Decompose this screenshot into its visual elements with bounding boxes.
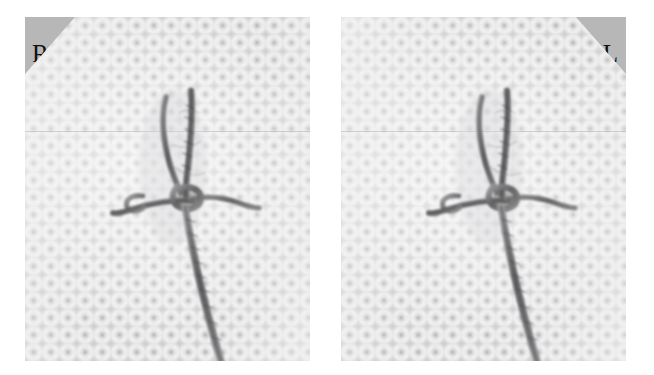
stereo-panel-right-eye: R [25,17,310,361]
stereo-figure: R [0,0,654,375]
stereo-panel-left-eye: L [341,17,626,361]
suture-knot-illustration [25,17,310,361]
suture-knot-illustration [341,17,626,361]
